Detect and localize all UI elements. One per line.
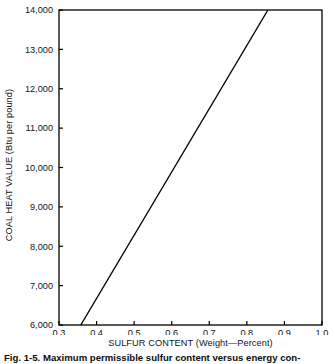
y-tick-label: 14,000 [25, 5, 53, 15]
y-tick-label: 9,000 [30, 202, 53, 212]
y-tick-label: 13,000 [25, 45, 53, 55]
x-tick-label: 0.4 [90, 328, 103, 335]
y-tick-label: 11,000 [26, 123, 53, 133]
figure-caption-text: Maximum permissible sulfur content versu… [43, 352, 301, 363]
figure-container: COAL HEAT VALUE (Btu per pound) 6,0007,0… [0, 0, 335, 364]
figure-caption: Fig. 1-5. Maximum permissible sulfur con… [4, 352, 335, 364]
x-tick-label: 0.9 [278, 328, 291, 335]
y-tick-label: 10,000 [25, 163, 53, 173]
y-tick-label: 12,000 [25, 84, 53, 94]
y-tick-label: 7,000 [30, 281, 53, 291]
x-tick-label: 0.5 [128, 328, 141, 335]
x-tick-label: 0.6 [165, 328, 178, 335]
x-tick-label: 0.3 [53, 328, 66, 335]
x-tick-label: 1.0 [316, 328, 329, 335]
figure-caption-label: Fig. 1-5. [4, 352, 40, 363]
x-tick-label: 0.8 [240, 328, 253, 335]
y-tick-label: 6,000 [30, 320, 53, 330]
x-axis-title: SULFUR CONTENT (Weight—Percent) [59, 338, 322, 348]
chart-plot: 6,0007,0008,0009,00010,00011,00012,00013… [0, 0, 335, 335]
x-tick-label: 0.7 [203, 328, 216, 335]
plot-frame [59, 10, 322, 325]
y-axis-ticks: 6,0007,0008,0009,00010,00011,00012,00013… [25, 5, 63, 330]
y-tick-label: 8,000 [30, 242, 53, 252]
